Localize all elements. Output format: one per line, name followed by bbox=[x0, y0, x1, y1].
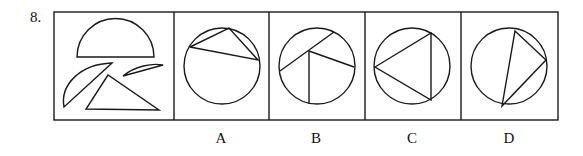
small-segment-shape bbox=[123, 64, 163, 76]
triangle-shape bbox=[86, 75, 159, 110]
option-d-figure bbox=[471, 28, 547, 106]
stem-panel bbox=[63, 19, 163, 111]
option-c-label[interactable]: C bbox=[402, 130, 422, 147]
option-d-label[interactable]: D bbox=[499, 130, 519, 147]
option-a-label[interactable]: A bbox=[211, 130, 231, 147]
semicircle-shape bbox=[77, 19, 154, 58]
large-segment-shape bbox=[63, 63, 112, 107]
option-c-figure bbox=[374, 28, 450, 104]
panels-frame bbox=[54, 12, 558, 120]
option-b-label[interactable]: B bbox=[306, 130, 326, 147]
puzzle-figure bbox=[0, 0, 583, 156]
option-b-figure bbox=[279, 28, 355, 104]
option-a-figure bbox=[184, 28, 260, 104]
